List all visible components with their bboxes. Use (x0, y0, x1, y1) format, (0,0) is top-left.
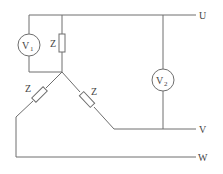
z-left-wire-upper (46, 72, 62, 88)
voltmeter-v1-symbol: V (22, 40, 30, 51)
voltmeter-v2-symbol: V (156, 75, 164, 86)
impedance-z-top-label: Z (50, 38, 56, 49)
voltmeter-v2: V 2 (152, 69, 174, 91)
voltmeter-v1: V 1 (18, 34, 40, 56)
terminal-label-u: U (199, 10, 207, 21)
terminal-label-v: V (199, 124, 207, 135)
z-left-wire-lower (16, 101, 33, 117)
terminal-label-w: W (198, 152, 208, 163)
impedance-z-left (32, 87, 48, 103)
circuit-diagram: U V 1 Z Z Z V (0, 0, 223, 174)
z-right-wire-upper (62, 72, 80, 92)
z-right-wire-lower (94, 107, 114, 129)
voltmeter-v1-subscript: 1 (30, 45, 34, 53)
voltmeter-v2-subscript: 2 (164, 80, 168, 88)
impedance-z-top (59, 34, 65, 52)
impedance-z-right-label: Z (91, 86, 97, 97)
impedance-z-left-label: Z (25, 83, 31, 94)
